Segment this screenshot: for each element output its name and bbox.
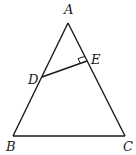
segment-ab xyxy=(13,23,68,136)
segment-ca xyxy=(68,23,125,136)
geometry-diagram: A B C D E xyxy=(0,0,136,155)
label-c: C xyxy=(123,139,133,154)
label-b: B xyxy=(5,139,16,154)
label-e: E xyxy=(90,52,101,67)
label-a: A xyxy=(63,2,73,17)
label-d: D xyxy=(27,72,39,87)
